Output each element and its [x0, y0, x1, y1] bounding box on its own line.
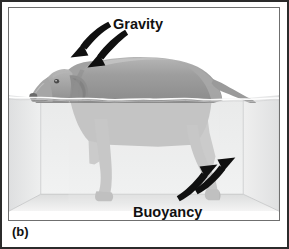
gravity-label: Gravity — [113, 16, 163, 32]
scene-illustration — [9, 8, 279, 220]
dog-above-water — [29, 57, 256, 103]
panel-label: (b) — [12, 224, 29, 239]
buoyancy-label: Buoyancy — [133, 204, 202, 220]
figure-panel: Gravity Buoyancy (b) — [0, 0, 289, 249]
illustration-frame: Gravity Buoyancy — [8, 7, 280, 221]
dog-eye — [54, 79, 59, 84]
figure-inner: Gravity Buoyancy (b) — [2, 2, 287, 247]
